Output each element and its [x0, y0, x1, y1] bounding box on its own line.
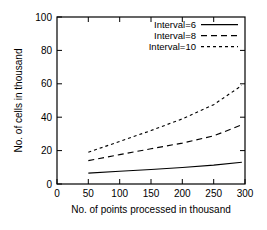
legend: Interval=6 Interval=8 Interval=10 — [149, 19, 238, 52]
legend-label-interval-8: Interval=8 — [154, 30, 196, 41]
y-tick-labels: 0 20 40 60 80 100 — [35, 12, 52, 190]
y-tick-label: 80 — [41, 45, 53, 56]
y-axis-title: No. of cells in thousand — [13, 49, 24, 153]
series-line-interval-10 — [88, 85, 242, 152]
x-tick-label: 200 — [174, 188, 191, 199]
line-chart-svg: 0 20 40 60 80 100 0 50 100 150 200 250 3… — [0, 0, 267, 230]
x-tick-label: 100 — [111, 188, 128, 199]
x-tick-label: 50 — [83, 188, 95, 199]
legend-label-interval-10: Interval=10 — [149, 41, 196, 52]
y-tick-label: 20 — [41, 145, 53, 156]
series-line-interval-6 — [88, 162, 242, 173]
x-tick-label: 0 — [54, 188, 60, 199]
y-tick-label: 40 — [41, 112, 53, 123]
legend-label-interval-6: Interval=6 — [154, 19, 196, 30]
y-tick-label: 0 — [46, 179, 52, 190]
y-tick-label: 60 — [41, 78, 53, 89]
series-plot-area — [88, 85, 242, 173]
x-tick-label: 300 — [237, 188, 254, 199]
x-axis-title: No. of points processed in thousand — [71, 204, 231, 215]
chart-figure: 0 20 40 60 80 100 0 50 100 150 200 250 3… — [0, 0, 267, 230]
x-tick-label: 250 — [205, 188, 222, 199]
y-tick-label: 100 — [35, 12, 52, 23]
series-line-interval-8 — [88, 125, 242, 161]
x-tick-labels: 0 50 100 150 200 250 300 — [54, 188, 254, 199]
x-tick-label: 150 — [143, 188, 160, 199]
